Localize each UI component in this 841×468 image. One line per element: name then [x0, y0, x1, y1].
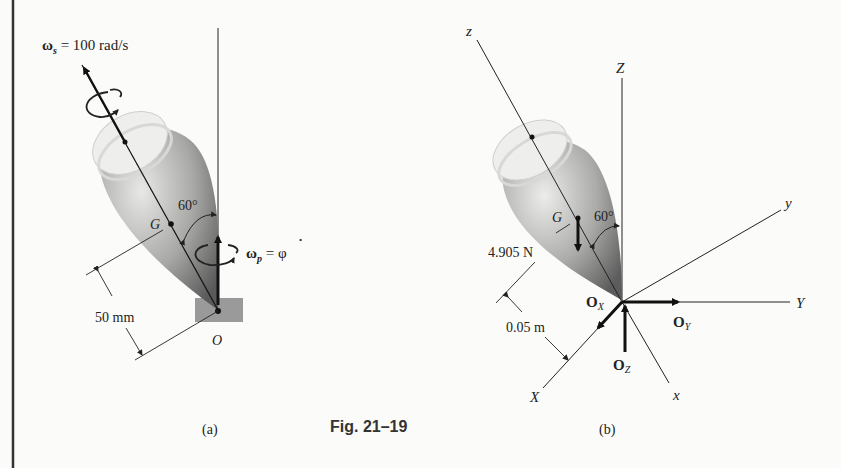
reaction-OX-label: OX	[586, 294, 605, 312]
panel-a: ωs = 100 rad/s G 60° ωp = φ • O 50 mm (a…	[42, 28, 302, 438]
spin-rotation-icon	[87, 92, 118, 117]
axis-X-label: X	[529, 389, 540, 405]
axis-point	[530, 135, 535, 140]
angle-label: 60°	[594, 209, 614, 224]
figure-caption: Fig. 21–19	[330, 418, 407, 435]
reaction-OY-label: OY	[673, 314, 692, 332]
dimension-line-top	[98, 271, 112, 296]
spin-rate-label: ωs = 100 rad/s	[42, 37, 128, 56]
panel-b: Z Y X y x z G 4.905 N 60° 0.05 m	[465, 23, 806, 438]
center-of-mass-label: G	[552, 210, 562, 225]
spin-rotation-icon-back	[110, 89, 121, 97]
angle-label: 60°	[178, 198, 198, 213]
axis-y-body	[622, 210, 781, 302]
precession-rotation-icon-back	[228, 245, 238, 253]
pivot-label: O	[212, 333, 222, 348]
distance-label: 50 mm	[95, 310, 134, 325]
dimension-extension-o	[135, 311, 218, 360]
dimension-extension-g-lower	[496, 262, 535, 303]
distance-label: 0.05 m	[506, 320, 545, 335]
axis-Z-label: Z	[616, 60, 625, 76]
time-derivative-dot: •	[299, 235, 302, 245]
precession-rate-label: ωp = φ	[246, 245, 287, 264]
figure-canvas: ωs = 100 rad/s G 60° ωp = φ • O 50 mm (a…	[0, 0, 841, 468]
center-of-mass-point	[168, 221, 174, 227]
dimension-line-top	[508, 297, 522, 312]
axis-point	[123, 140, 128, 145]
axis-Y-label: Y	[796, 295, 806, 311]
reaction-OZ-label: OZ	[613, 357, 631, 375]
center-of-mass-label: G	[150, 217, 160, 232]
axis-y-label: y	[783, 195, 792, 211]
dimension-line-bottom	[126, 328, 142, 355]
axis-x-label: x	[672, 387, 680, 403]
dimension-line-bottom	[545, 337, 568, 360]
panel-b-label: (b)	[599, 422, 616, 438]
axis-z-label: z	[465, 23, 472, 39]
weight-label: 4.905 N	[488, 245, 533, 260]
panel-a-label: (a)	[202, 422, 218, 438]
